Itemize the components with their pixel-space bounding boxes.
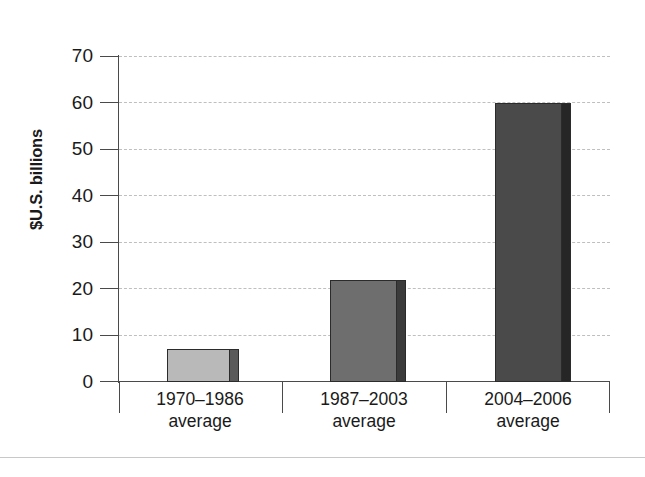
y-tick-label-40: 40 <box>47 186 93 205</box>
bar-front-face <box>495 103 562 382</box>
x-axis-label-sub: average <box>282 410 446 432</box>
x-axis-label-sub: average <box>118 410 282 432</box>
y-tick-label-10: 10 <box>47 325 93 344</box>
x-axis-label-2004-2006: 2004–2006 average <box>446 388 610 432</box>
y-tick-label-50: 50 <box>47 139 93 158</box>
y-axis-title: $U.S. billions <box>27 100 46 260</box>
x-axis-label-range: 1987–2003 <box>282 388 446 410</box>
y-tick-mark-20 <box>100 288 119 289</box>
bar-1987-2003[interactable] <box>330 280 397 382</box>
bar-front-face <box>167 349 230 382</box>
y-tick-mark-70 <box>100 56 119 57</box>
bar-side-face <box>230 349 239 382</box>
bar-front-face <box>330 280 397 382</box>
bar-side-face <box>397 280 406 382</box>
x-axis-label-1970-1986: 1970–1986 average <box>118 388 282 432</box>
y-tick-label-0: 0 <box>47 372 93 391</box>
page-scan-rule <box>0 457 645 458</box>
plot-area <box>119 56 610 382</box>
x-axis-label-range: 1970–1986 <box>118 388 282 410</box>
y-tick-label-30: 30 <box>47 232 93 251</box>
y-tick-mark-10 <box>100 335 119 336</box>
x-axis-label-range: 2004–2006 <box>446 388 610 410</box>
y-tick-mark-60 <box>100 102 119 103</box>
x-axis-label-sub: average <box>446 410 610 432</box>
x-axis-label-1987-2003: 1987–2003 average <box>282 388 446 432</box>
bar-side-face <box>562 103 571 382</box>
y-tick-label-60: 60 <box>47 93 93 112</box>
y-tick-mark-50 <box>100 149 119 150</box>
y-tick-label-70: 70 <box>47 46 93 65</box>
bar-2004-2006[interactable] <box>495 103 562 382</box>
bar-1970-1986[interactable] <box>167 349 230 382</box>
y-tick-mark-40 <box>100 195 119 196</box>
y-tick-label-20: 20 <box>47 279 93 298</box>
bar-chart-figure: $U.S. billions 70 60 50 40 30 20 10 0 <box>0 0 645 477</box>
gridline-70 <box>119 56 610 57</box>
y-tick-mark-30 <box>100 242 119 243</box>
